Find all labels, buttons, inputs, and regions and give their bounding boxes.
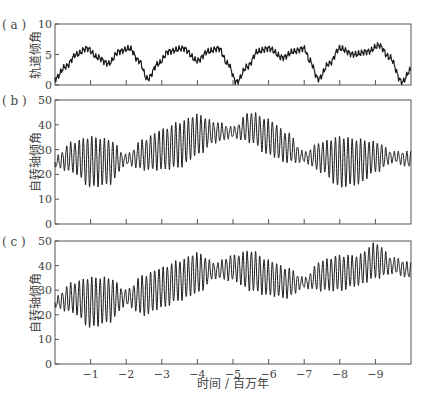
x-tick-label: −3 — [154, 368, 170, 381]
panel-label: ( a ) — [2, 18, 26, 32]
y-tick-label: 0 — [45, 358, 52, 371]
x-axis-label: 时间 / 百万年 — [197, 377, 269, 391]
panel-c-obliquity: 01020304050−1−2−3−4−5−6−7−8−9( c )自转轴倾角 — [2, 235, 411, 381]
x-tick-label: −9 — [367, 368, 383, 381]
y-tick-label: 10 — [38, 193, 52, 206]
y-tick-label: 5 — [45, 49, 52, 62]
data-series — [55, 113, 411, 188]
panel-a-orbital-inclination: 0510( a )轨道倾角 — [2, 18, 411, 92]
x-tick-label: −8 — [332, 368, 348, 381]
y-tick-label: 0 — [45, 218, 52, 231]
y-tick-label: 50 — [38, 235, 52, 248]
y-axis-label: 轨道倾角 — [29, 31, 43, 79]
x-tick-label: −7 — [296, 368, 312, 381]
y-tick-label: 10 — [38, 18, 52, 31]
figure: 0510( a )轨道倾角 01020304050( b )自转轴倾角 0102… — [0, 0, 429, 406]
y-tick-label: 0 — [45, 79, 52, 92]
plot-frame — [55, 241, 411, 364]
data-series — [55, 243, 411, 328]
y-tick-label: 40 — [38, 260, 52, 273]
panel-label: ( b ) — [2, 94, 27, 108]
x-tick-label: −2 — [118, 368, 134, 381]
panel-label: ( c ) — [2, 235, 26, 249]
data-series — [55, 43, 411, 85]
y-tick-label: 10 — [38, 333, 52, 346]
y-axis-label: 自转轴倾角 — [28, 132, 43, 192]
x-tick-label: −1 — [82, 368, 98, 381]
panel-b-obliquity: 01020304050( b )自转轴倾角 — [2, 94, 411, 231]
y-tick-label: 50 — [38, 94, 52, 107]
y-tick-label: 40 — [38, 119, 52, 132]
y-axis-label: 自转轴倾角 — [28, 273, 43, 333]
